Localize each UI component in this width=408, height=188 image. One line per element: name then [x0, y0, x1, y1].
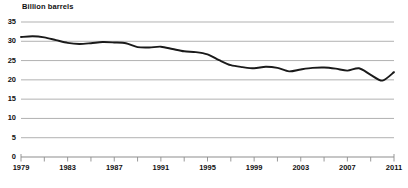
y-axis-tick-label: 5: [2, 134, 16, 142]
chart-container: Billion barrels 05101520253035 197919831…: [0, 0, 408, 188]
y-axis-tick-label: 35: [2, 18, 16, 26]
y-axis-tick-label: 0: [2, 153, 16, 161]
x-axis-tick-label: 1983: [59, 164, 76, 172]
x-axis-tick-label: 1999: [246, 164, 263, 172]
chart-plot-area: [0, 0, 408, 188]
x-axis-tick-label: 2011: [386, 164, 402, 172]
x-axis-tick-label: 2003: [292, 164, 309, 172]
gridlines: [21, 22, 394, 138]
x-axis-tick-label: 1995: [199, 164, 216, 172]
y-axis-tick-label: 10: [2, 115, 16, 123]
y-axis-tick-label: 25: [2, 57, 16, 65]
x-axis-ticks: [21, 154, 394, 162]
y-axis-tick-label: 30: [2, 38, 16, 46]
x-axis-tick-label: 1987: [106, 164, 123, 172]
y-axis-tick-label: 15: [2, 95, 16, 103]
data-series-line: [21, 36, 394, 80]
x-axis-tick-label: 1979: [13, 164, 30, 172]
y-axis-tick-label: 20: [2, 76, 16, 84]
x-axis-tick-label: 1991: [153, 164, 170, 172]
x-axis-tick-label: 2007: [339, 164, 356, 172]
